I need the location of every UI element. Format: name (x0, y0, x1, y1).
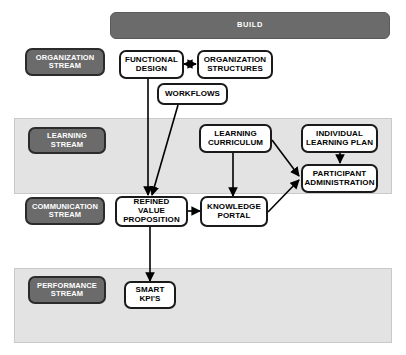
node-knowledge-portal[interactable]: KNOWLEDGE PORTAL (200, 196, 268, 227)
diagram-canvas: BUILD ORGANIZATION STREAM LEARNING STREA… (0, 0, 406, 355)
stream-label-learning: LEARNING STREAM (28, 127, 106, 154)
node-organization-structures[interactable]: ORGANIZATION STRUCTURES (197, 50, 273, 79)
node-functional-design-label: FUNCTIONAL DESIGN (121, 56, 182, 74)
node-individual-learning-plan[interactable]: INDIVIDUAL LEARNING PLAN (301, 124, 378, 153)
stream-label-learning-text: LEARNING STREAM (30, 132, 104, 149)
node-workflows-label: WORKFLOWS (163, 90, 222, 99)
node-knowledge-portal-label: KNOWLEDGE PORTAL (202, 203, 266, 221)
build-header-label: BUILD (235, 21, 265, 29)
stream-label-organization-text: ORGANIZATION STREAM (27, 54, 103, 71)
node-smart-kpis[interactable]: SMART KPI'S (124, 281, 176, 309)
node-refined-value-proposition-label: REFINED VALUE PROPOSITION (117, 198, 186, 225)
stream-label-communication: COMMUNICATION STREAM (25, 197, 105, 225)
stream-label-communication-text: COMMUNICATION STREAM (27, 203, 103, 220)
stream-label-performance: PERFORMANCE STREAM (28, 276, 106, 304)
node-functional-design[interactable]: FUNCTIONAL DESIGN (119, 50, 184, 79)
node-participant-administration[interactable]: PARTICIPANT ADMINISTRATION (301, 164, 378, 193)
node-organization-structures-label: ORGANIZATION STRUCTURES (199, 56, 271, 74)
build-header-bar: BUILD (110, 12, 390, 39)
node-refined-value-proposition[interactable]: REFINED VALUE PROPOSITION (115, 196, 188, 227)
node-learning-curriculum-label: LEARNING CURRICULUM (201, 130, 270, 148)
node-learning-curriculum[interactable]: LEARNING CURRICULUM (199, 124, 272, 153)
node-participant-administration-label: PARTICIPANT ADMINISTRATION (302, 170, 376, 188)
stream-label-organization: ORGANIZATION STREAM (25, 48, 105, 76)
node-individual-learning-plan-label: INDIVIDUAL LEARNING PLAN (303, 130, 376, 148)
node-workflows[interactable]: WORKFLOWS (157, 83, 228, 105)
node-smart-kpis-label: SMART KPI'S (126, 286, 174, 304)
stream-label-performance-text: PERFORMANCE STREAM (30, 282, 104, 299)
